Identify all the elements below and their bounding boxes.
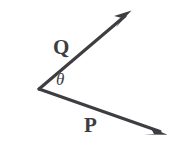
vector-q-label: Q	[53, 37, 70, 58]
vector-p-label: P	[84, 115, 97, 136]
vector-angle-figure: Q P θ	[0, 0, 176, 145]
angle-theta-label: θ	[56, 71, 64, 88]
vector-p-shaft	[39, 89, 160, 132]
vector-q-shaft	[39, 16, 125, 89]
